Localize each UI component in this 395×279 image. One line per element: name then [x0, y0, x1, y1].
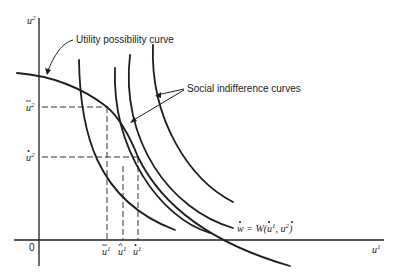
utility-possibility-label: Utility possibility curve: [76, 34, 174, 45]
utility-possibility-arrow: [47, 40, 73, 73]
star-accent-icon: [268, 221, 270, 223]
social-indifference-label: Social indifference curves: [187, 83, 301, 94]
y-axis-label: u2: [27, 14, 36, 26]
social-indifference-arrowhead-2: [130, 117, 137, 123]
utility-possibility-arrowhead: [45, 68, 51, 75]
x-tick-u1-bar: u1: [102, 245, 111, 257]
social-indifference-curve-3: [129, 55, 233, 228]
x-tick-u1-star: u1: [133, 245, 142, 257]
star-accent-icon: [28, 150, 30, 152]
star-accent-icon: [135, 244, 137, 246]
star-accent-icon: [239, 221, 241, 223]
x-axis-label: u1: [372, 243, 381, 255]
x-tick-u1-hat: u1: [118, 245, 127, 257]
welfare-diagram: u2 u1 0 Utility possibility curve Social…: [0, 0, 395, 279]
welfare-equation: w = W(u1, u2): [237, 222, 293, 235]
star-accent-icon: [291, 221, 293, 223]
utility-possibility-curve: [17, 73, 290, 266]
y-tick-u2-bar: u2: [26, 101, 35, 113]
y-tick-u2-star: u2: [26, 151, 35, 163]
origin-label: 0: [29, 242, 35, 253]
social-indifference-curve-4: [153, 45, 233, 202]
